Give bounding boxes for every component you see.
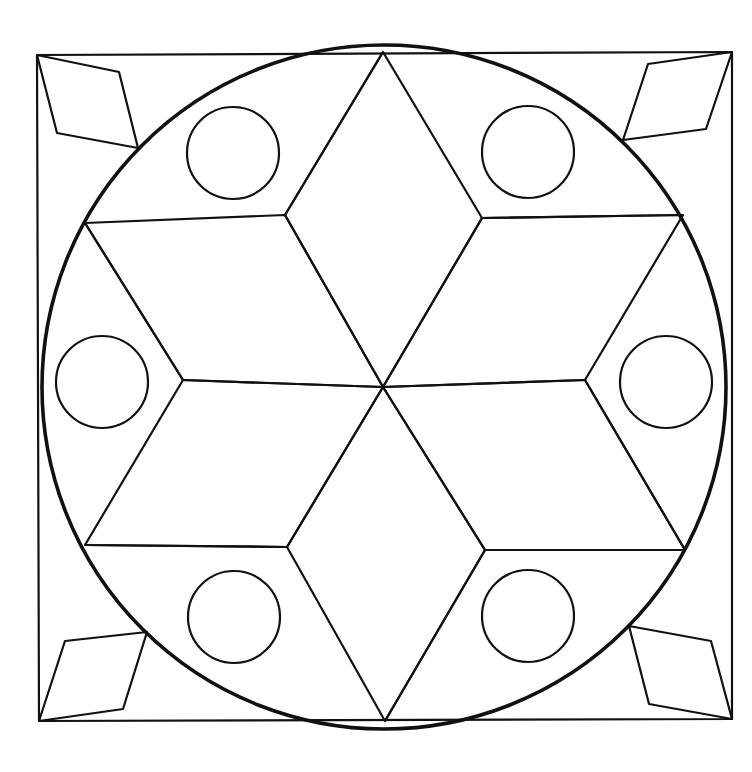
- geometric-mandala-figure: [0, 0, 752, 772]
